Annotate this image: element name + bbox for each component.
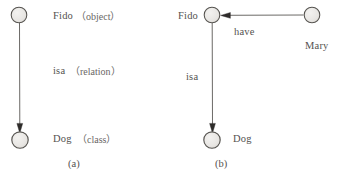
label-fido-a-qualifier: （object） xyxy=(76,12,120,22)
edge-have-b xyxy=(221,13,304,19)
label-dog-a-qualifier: （class） xyxy=(77,135,116,145)
label-isa-a: isa xyxy=(53,66,65,77)
label-fido-b: Fido xyxy=(178,11,198,22)
label-dog-b: Dog xyxy=(233,134,252,145)
label-have-b: have xyxy=(234,27,255,38)
node-dog-a xyxy=(12,132,28,148)
node-dog-b xyxy=(204,132,220,148)
figure-root: Fido （object） isa （relation） Dog （class）… xyxy=(0,0,345,182)
node-mary-b xyxy=(304,7,320,23)
label-mary-b: Mary xyxy=(305,41,329,52)
diagram-canvas xyxy=(0,0,345,182)
node-fido-a xyxy=(11,7,27,23)
edge-isa-a xyxy=(17,23,23,133)
node-fido-b xyxy=(204,7,220,23)
caption-panel-a: (a) xyxy=(68,159,80,170)
label-isa-a-qualifier: （relation） xyxy=(70,67,121,77)
edge-isa-b xyxy=(210,23,216,133)
label-isa-b: isa xyxy=(186,72,198,83)
caption-panel-b: (b) xyxy=(215,159,227,170)
label-fido-a: Fido xyxy=(53,11,73,22)
label-dog-a: Dog xyxy=(53,134,72,145)
